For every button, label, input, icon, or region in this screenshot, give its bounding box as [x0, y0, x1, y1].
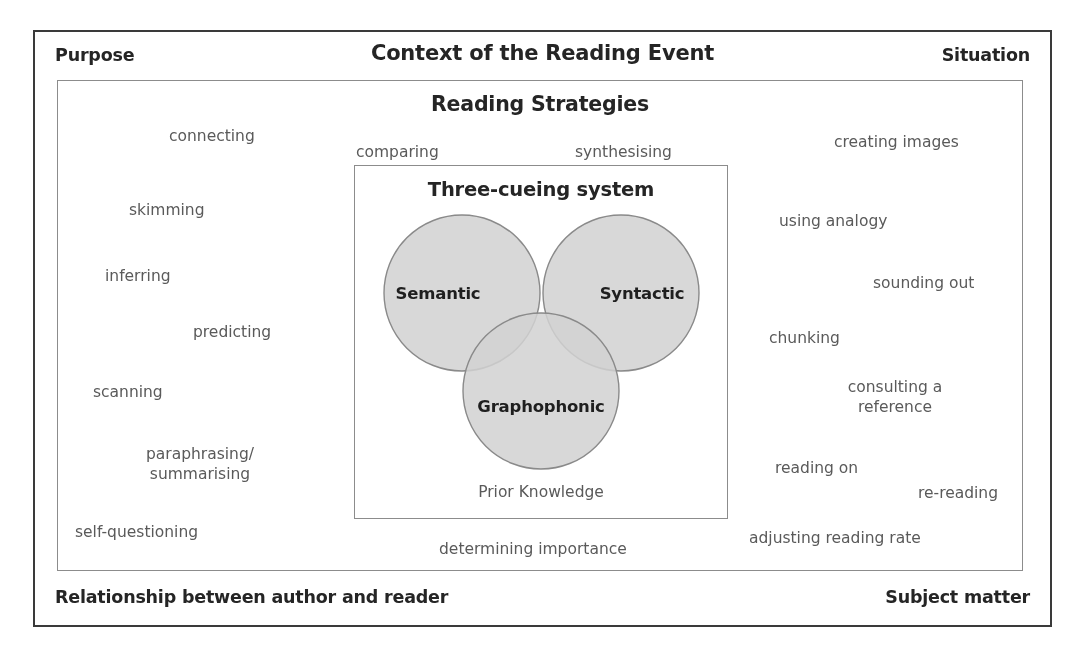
strategy-word: creating images — [834, 132, 959, 152]
strategy-word: self-questioning — [75, 522, 198, 542]
reading-event-diagram: Purpose Context of the Reading Event Sit… — [0, 0, 1083, 657]
strategy-word: synthesising — [575, 142, 672, 162]
context-header-band: Purpose Context of the Reading Event Sit… — [33, 32, 1052, 80]
strategy-word: predicting — [193, 322, 271, 342]
strategy-word: reading on — [775, 458, 858, 478]
strategy-word: skimming — [129, 200, 205, 220]
venn-label-semantic: Semantic — [396, 284, 481, 303]
strategy-word: paraphrasing/summarising — [146, 444, 254, 485]
prior-knowledge-label: Prior Knowledge — [355, 483, 727, 501]
strategy-word: determining importance — [439, 539, 627, 559]
strategy-word: re-reading — [918, 483, 998, 503]
header-label-situation: Situation — [942, 45, 1030, 65]
strategy-word: consulting areference — [848, 377, 943, 418]
strategy-word: using analogy — [779, 211, 887, 231]
strategy-word: connecting — [169, 126, 255, 146]
context-footer-band: Relationship between author and reader S… — [33, 575, 1052, 625]
venn-label-graphophonic: Graphophonic — [477, 397, 604, 416]
strategy-word: inferring — [105, 266, 171, 286]
strategy-word: scanning — [93, 382, 163, 402]
strategy-word: sounding out — [873, 273, 974, 293]
venn-svg — [355, 166, 729, 520]
three-cueing-system-box: Three-cueing system SemanticSyntacticGra… — [354, 165, 728, 519]
footer-label-relationship: Relationship between author and reader — [55, 587, 448, 607]
diagram-title: Context of the Reading Event — [33, 41, 1052, 65]
venn-diagram — [355, 166, 729, 520]
strategy-word: comparing — [356, 142, 439, 162]
three-cueing-system-title: Three-cueing system — [355, 178, 727, 201]
strategy-word: adjusting reading rate — [749, 528, 921, 548]
strategy-word: chunking — [769, 328, 840, 348]
footer-label-subject-matter: Subject matter — [885, 587, 1030, 607]
venn-label-syntactic: Syntactic — [600, 284, 685, 303]
venn-circle-graphophonic — [463, 313, 619, 469]
reading-strategies-title: Reading Strategies — [58, 92, 1022, 116]
